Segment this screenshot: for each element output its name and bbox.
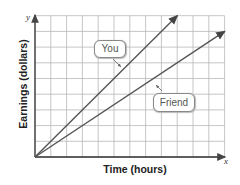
you-callout: You [94, 40, 126, 58]
friend-callout: Friend [153, 93, 195, 112]
y-axis-label: Earnings (dollars) [17, 29, 29, 139]
y-axis-name: y [26, 12, 30, 22]
x-axis-label: Time (hours) [80, 163, 190, 175]
series-line-you [35, 16, 177, 157]
x-axis-name: x [224, 156, 228, 166]
grid [35, 16, 225, 157]
chart-canvas [0, 0, 240, 185]
